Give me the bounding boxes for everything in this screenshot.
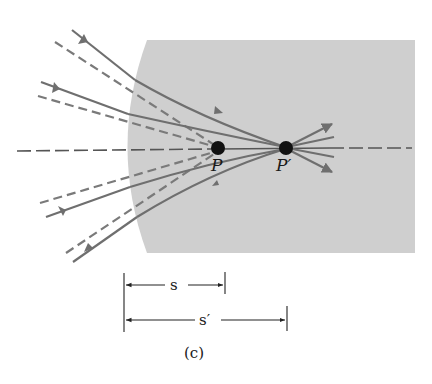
object-point-P [211,141,225,155]
figure-caption: (c) [184,344,204,362]
distance-s-label: s [170,276,178,294]
image-point-P-prime [279,141,293,155]
object-point-label: P [210,155,223,175]
incident-rays [41,30,137,262]
distance-s-prime-label: s′ [199,311,211,329]
refraction-diagram: P P′ s s′ (c) [0,0,432,384]
incident-ray-arrow-icons [52,34,93,252]
image-point-label: P′ [275,155,291,175]
refracting-medium [128,40,416,253]
